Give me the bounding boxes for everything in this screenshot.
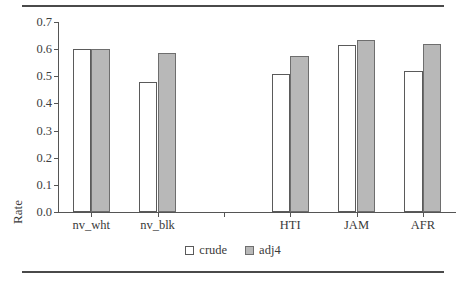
y-axis-tick-label: 0.4 <box>36 97 52 110</box>
bar-crude-nv_blk <box>139 82 158 212</box>
legend-label-adj4: adj4 <box>259 243 281 258</box>
x-axis-tick <box>290 212 291 217</box>
bar-crude-JAM <box>338 45 357 212</box>
y-axis-tick-label: 0.5 <box>36 70 52 83</box>
x-axis-tick-label: AFR <box>411 219 435 232</box>
legend-item-crude: crude <box>185 243 227 258</box>
filled-square-icon <box>245 246 254 255</box>
y-axis-tick-label: 0.6 <box>36 43 52 56</box>
y-axis-tick-label: 0.3 <box>36 124 52 137</box>
y-axis-tick <box>54 158 58 159</box>
bar-crude-AFR <box>404 71 423 212</box>
bottom-rule <box>22 271 444 273</box>
y-axis-tick <box>54 185 58 186</box>
y-axis-tick <box>54 103 58 104</box>
x-axis-tick <box>423 212 424 217</box>
y-axis-tick-label: 0.7 <box>36 16 52 29</box>
x-axis-tick-label: nv_wht <box>72 219 110 232</box>
y-axis-tick-label: 0.0 <box>36 206 52 219</box>
x-axis-tick <box>224 212 225 217</box>
y-axis-tick-label: 0.1 <box>36 179 52 192</box>
bar-crude-nv_wht <box>73 49 92 212</box>
bar-crude-HTI <box>272 74 291 212</box>
x-axis-tick <box>357 212 358 217</box>
bar-adj4-nv_wht <box>91 49 110 212</box>
chart-figure: Rate 0.00.10.20.30.40.50.60.7nv_whtnv_bl… <box>0 0 466 283</box>
x-axis-tick <box>158 212 159 217</box>
y-axis-tick <box>54 131 58 132</box>
open-square-icon <box>185 246 194 255</box>
x-axis-tick-label: nv_blk <box>140 219 175 232</box>
y-axis-tick-label: 0.2 <box>36 151 52 164</box>
x-axis-line <box>58 212 456 213</box>
bar-adj4-JAM <box>357 40 376 212</box>
y-axis-tick <box>54 49 58 50</box>
y-axis-tick <box>54 22 58 23</box>
x-axis-tick-label: HTI <box>280 219 301 232</box>
top-rule <box>22 5 444 7</box>
y-axis-tick <box>54 212 58 213</box>
bar-adj4-nv_blk <box>158 53 177 212</box>
legend-label-crude: crude <box>199 243 227 258</box>
legend-item-adj4: adj4 <box>245 243 281 258</box>
plot-area: 0.00.10.20.30.40.50.60.7nv_whtnv_blkHTIJ… <box>58 22 456 212</box>
x-axis-tick-label: JAM <box>344 219 369 232</box>
bar-adj4-HTI <box>290 56 309 212</box>
y-axis-tick <box>54 76 58 77</box>
y-axis-line <box>58 22 59 212</box>
x-axis-tick <box>91 212 92 217</box>
bar-adj4-AFR <box>423 44 442 212</box>
y-axis-label: Rate <box>10 200 26 224</box>
chart-legend: crude adj4 <box>0 243 466 258</box>
